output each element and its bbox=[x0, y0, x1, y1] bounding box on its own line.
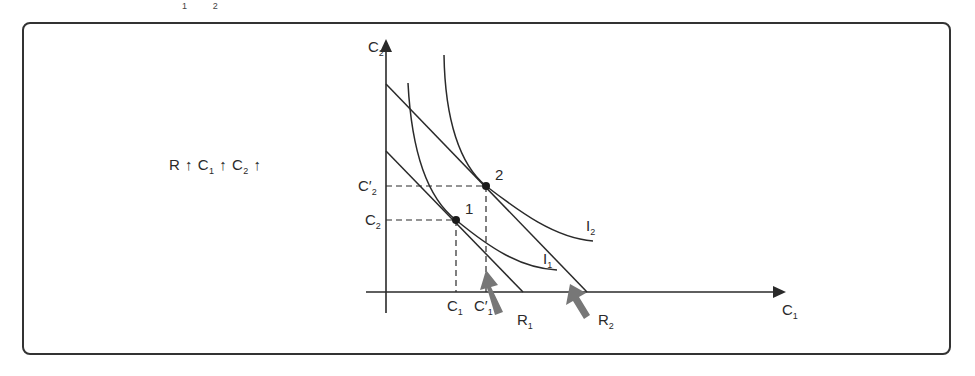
curve-i1-label: I1 bbox=[543, 250, 552, 270]
tick-c2-prime: C′2 bbox=[358, 177, 377, 197]
point-1 bbox=[452, 216, 460, 224]
indifference-curves bbox=[408, 55, 593, 270]
point-2 bbox=[482, 182, 490, 190]
tick-c1-prime: C′1 bbox=[474, 297, 493, 317]
x-axis-label: C1 bbox=[782, 301, 798, 321]
curve-i2-label: I2 bbox=[586, 217, 595, 237]
tick-c1: C1 bbox=[447, 297, 463, 317]
indifference-diagram: 1 2 C2 C1 C′2 C2 C1 C′1 I1 I2 R1 R2 bbox=[0, 0, 975, 376]
x-axis-arrow-icon bbox=[773, 286, 786, 298]
point-1-label: 1 bbox=[465, 200, 473, 217]
y-axis-label: C2 bbox=[368, 38, 384, 58]
budget-r2-label: R2 bbox=[598, 311, 614, 331]
point-2-label: 2 bbox=[495, 166, 503, 183]
curve-i1 bbox=[408, 83, 557, 270]
budget-r1-label: R1 bbox=[517, 311, 533, 331]
tick-c2: C2 bbox=[365, 211, 381, 231]
